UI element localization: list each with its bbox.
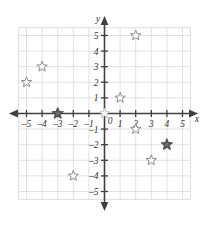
x-tick-label: 3 — [148, 119, 154, 129]
y-tick-label: –3 — [88, 156, 99, 166]
y-tick-label: 4 — [94, 47, 99, 57]
y-tick-label: 3 — [93, 62, 99, 72]
coordinate-plane-svg: –5–4–3–2–11234554321–1–2–3–4–5 x y 0 — [0, 0, 211, 228]
x-axis-label: x — [194, 113, 200, 124]
x-tick-label: –5 — [21, 119, 32, 129]
x-tick-label: –4 — [36, 119, 47, 129]
origin-label: 0 — [108, 116, 113, 126]
x-tick-label: 1 — [118, 119, 123, 129]
y-tick-label: 2 — [94, 78, 99, 88]
y-axis-label: y — [95, 13, 101, 24]
y-tick-label: 5 — [94, 31, 99, 41]
x-tick-label: –3 — [52, 119, 63, 129]
y-tick-label: –5 — [88, 187, 99, 197]
y-tick-label: 1 — [94, 93, 99, 103]
x-tick-label: –2 — [68, 119, 79, 129]
y-tick-label: –1 — [88, 125, 99, 135]
coordinate-plane-figure: –5–4–3–2–11234554321–1–2–3–4–5 x y 0 — [0, 0, 211, 228]
x-tick-label: 4 — [165, 119, 170, 129]
x-tick-label: 5 — [180, 119, 185, 129]
y-tick-label: –4 — [88, 171, 99, 181]
y-tick-label: –2 — [88, 140, 99, 150]
